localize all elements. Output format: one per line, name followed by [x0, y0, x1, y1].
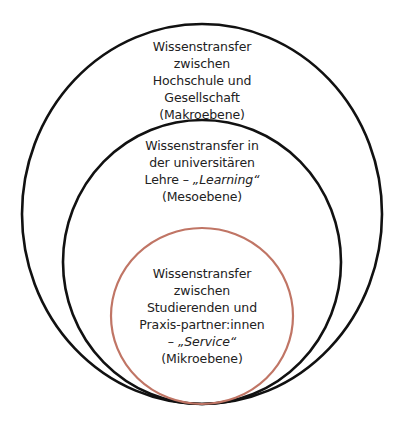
macro-label-line: Hochschule und — [102, 72, 302, 89]
micro-label-keyword: „Service“ — [178, 334, 236, 349]
macro-level-label: Wissenstransfer zwischen Hochschule und … — [102, 38, 302, 123]
meso-label-line: (Mesoebene) — [102, 188, 302, 205]
macro-label-line: Gesellschaft — [102, 89, 302, 106]
meso-label-keyword: „Learning“ — [193, 172, 260, 187]
macro-label-line: (Makroebene) — [102, 106, 302, 123]
micro-label-line: Studierenden und — [102, 299, 302, 316]
meso-label-line: der universitären — [102, 154, 302, 171]
micro-label-line: – „Service“ — [102, 333, 302, 350]
micro-label-prefix: – — [168, 334, 178, 349]
macro-label-line: zwischen — [102, 55, 302, 72]
meso-label-line: Wissenstransfer in — [102, 137, 302, 154]
meso-label-line: Lehre – „Learning“ — [102, 171, 302, 188]
meso-label-prefix: Lehre – — [145, 172, 193, 187]
micro-label-line: Praxis-partner:innen — [102, 316, 302, 333]
micro-label-line: (Mikroebene) — [102, 350, 302, 367]
meso-level-label: Wissenstransfer in der universitären Leh… — [102, 137, 302, 205]
micro-level-label: Wissenstransfer zwischen Studierenden un… — [102, 265, 302, 367]
micro-label-line: zwischen — [102, 282, 302, 299]
macro-label-line: Wissenstransfer — [102, 38, 302, 55]
micro-label-line: Wissenstransfer — [102, 265, 302, 282]
